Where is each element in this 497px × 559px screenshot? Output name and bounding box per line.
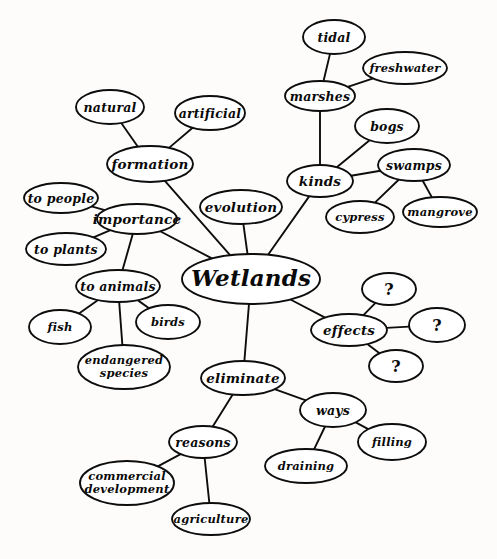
node-label-cypress: cypress (335, 210, 385, 224)
node-label-reasons: reasons (175, 435, 231, 450)
node-label-swamps: swamps (386, 158, 442, 173)
node-label-to-people: to people (28, 191, 95, 206)
node-label-q3: ? (391, 357, 401, 376)
node-draining[interactable]: draining (265, 449, 347, 483)
node-cypress[interactable]: cypress (326, 201, 394, 233)
node-kinds[interactable]: kinds (287, 165, 353, 197)
edge-formation-to-natural (121, 123, 138, 147)
edge-effects-to-q1 (363, 303, 375, 315)
node-layer: Wetlandskindsmarshestidalfreshwaterbogss… (24, 20, 477, 535)
node-label-importance: importance (93, 211, 182, 227)
node-label-commercial: commercialdevelopment (85, 469, 170, 496)
node-q1[interactable]: ? (362, 273, 416, 305)
edge-importance-to-to-plants (94, 230, 111, 237)
edge-importance-to-to-animals (123, 234, 133, 270)
node-evolution[interactable]: evolution (200, 190, 282, 224)
edge-eliminate-to-ways (275, 389, 306, 400)
node-label-marshes: marshes (290, 89, 350, 104)
node-label-q2: ? (432, 316, 442, 335)
node-q3[interactable]: ? (369, 350, 423, 382)
edge-effects-to-q2 (387, 327, 409, 328)
edge-wetlands-to-eliminate (244, 304, 249, 361)
node-label-wetlands: Wetlands (191, 264, 311, 291)
edge-marshes-to-freshwater (348, 78, 373, 86)
node-label-eliminate: eliminate (206, 370, 280, 386)
node-to-people[interactable]: to people (24, 183, 98, 213)
node-q2[interactable]: ? (409, 308, 465, 342)
node-label-evolution: evolution (205, 199, 277, 215)
edge-wetlands-to-effects (290, 300, 325, 318)
node-label-natural: natural (84, 100, 137, 115)
concept-map-svg: Wetlandskindsmarshestidalfreshwaterbogss… (0, 0, 497, 559)
node-mangrove[interactable]: mangrove (403, 197, 477, 227)
node-agriculture[interactable]: agriculture (172, 503, 250, 535)
edge-eliminate-to-reasons (213, 394, 233, 426)
node-wetlands[interactable]: Wetlands (182, 254, 320, 304)
edge-kinds-to-swamps (351, 171, 380, 176)
edge-swamps-to-mangrove (423, 181, 432, 198)
edge-to-animals-to-fish (79, 300, 98, 313)
edge-kinds-to-bogs (337, 140, 370, 167)
node-freshwater[interactable]: freshwater (363, 52, 447, 84)
node-label-filling: filling (371, 435, 412, 449)
node-label-mangrove: mangrove (407, 205, 472, 219)
node-label-ways: ways (316, 403, 350, 418)
node-bogs[interactable]: bogs (355, 109, 419, 143)
node-label-bogs: bogs (370, 119, 404, 134)
node-formation[interactable]: formation (107, 146, 193, 182)
node-filling[interactable]: filling (358, 424, 426, 460)
node-label-draining: draining (278, 459, 335, 473)
node-label-freshwater: freshwater (368, 61, 441, 75)
node-to-animals[interactable]: to animals (76, 270, 160, 302)
node-swamps[interactable]: swamps (378, 149, 450, 181)
edge-swamps-to-cypress (375, 180, 399, 203)
node-commercial[interactable]: commercialdevelopment (80, 461, 174, 505)
node-label-birds: birds (151, 315, 185, 329)
node-fish[interactable]: fish (29, 310, 91, 344)
node-marshes[interactable]: marshes (285, 81, 355, 111)
edge-ways-to-filling (356, 422, 369, 429)
edge-wetlands-to-evolution (243, 224, 247, 254)
node-label-tidal: tidal (317, 30, 350, 45)
edge-to-animals-to-endangered (119, 302, 122, 345)
node-label-to-animals: to animals (80, 279, 156, 294)
node-importance[interactable]: importance (93, 204, 182, 234)
node-label-to-plants: to plants (34, 242, 98, 257)
node-artificial[interactable]: artificial (175, 96, 245, 130)
node-birds[interactable]: birds (136, 305, 200, 339)
node-tidal[interactable]: tidal (303, 20, 365, 54)
node-endangered[interactable]: endangeredspecies (78, 345, 170, 389)
edge-marshes-to-tidal (324, 54, 330, 81)
node-label-q1: ? (384, 280, 394, 299)
node-label-agriculture: agriculture (174, 512, 249, 526)
node-label-fish: fish (47, 320, 73, 334)
node-natural[interactable]: natural (76, 90, 144, 124)
node-effects[interactable]: effects (311, 314, 387, 346)
node-ways[interactable]: ways (300, 393, 366, 427)
edge-reasons-to-agriculture (205, 458, 210, 503)
node-label-effects: effects (323, 322, 375, 338)
edge-formation-to-artificial (169, 128, 193, 148)
edge-reasons-to-commercial (158, 454, 181, 466)
node-label-formation: formation (111, 156, 189, 172)
edge-effects-to-q3 (367, 344, 379, 353)
node-to-plants[interactable]: to plants (26, 233, 106, 265)
node-label-artificial: artificial (179, 106, 242, 121)
node-eliminate[interactable]: eliminate (201, 361, 285, 395)
edge-ways-to-draining (314, 427, 325, 450)
edge-wetlands-to-importance (160, 231, 212, 258)
node-label-kinds: kinds (299, 173, 342, 189)
edge-to-animals-to-birds (138, 300, 149, 308)
concept-map-canvas: Wetlandskindsmarshestidalfreshwaterbogss… (0, 0, 497, 559)
node-reasons[interactable]: reasons (169, 426, 237, 458)
